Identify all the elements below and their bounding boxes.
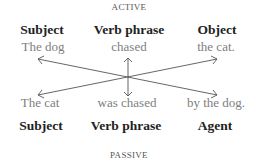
passive-phrase-agent: by the dog. [187,95,245,111]
passive-phrase-verb: was chased [98,95,157,111]
passive-label: PASSIVE [110,150,148,160]
passive-heading-verb-phrase: Verb phrase [91,118,161,134]
transformation-arrows [0,0,259,167]
passive-heading-subject: Subject [19,118,63,134]
passive-phrase-subject: The cat [21,95,60,111]
passive-heading-agent: Agent [198,118,233,134]
